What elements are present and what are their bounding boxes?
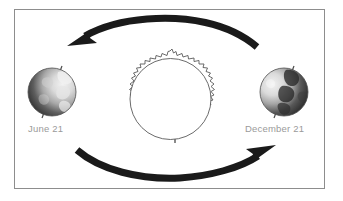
label-december-21: December 21 bbox=[245, 124, 304, 134]
sun-disc bbox=[130, 59, 211, 140]
orbit-arrow-top-shaft bbox=[85, 18, 257, 47]
orbit-diagram bbox=[0, 0, 343, 201]
figure-root: June 21 December 21 bbox=[0, 0, 343, 201]
orbit-arrow-bottom bbox=[77, 145, 276, 178]
label-june-21: June 21 bbox=[28, 124, 63, 134]
earth-june bbox=[28, 66, 76, 118]
sun bbox=[130, 49, 215, 143]
orbit-arrow-bottom-shaft bbox=[77, 150, 258, 178]
orbit-arrow-top bbox=[67, 18, 257, 47]
earth-december bbox=[260, 66, 308, 118]
